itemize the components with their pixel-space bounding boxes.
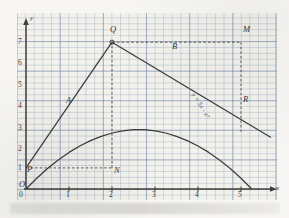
y-tick-label-2: 2 [18,145,22,153]
y-tick-label-1: 1 [18,164,22,172]
y-tick-label-6: 6 [18,59,22,67]
x-tick-label-1: 1 [66,191,70,199]
graph-paper-screenshot: 7 6 5 4 3 2 1 0 1 2 3 4 5 y x O P A Q B … [0,0,289,218]
point-label-m: M [243,25,250,34]
point-label-n: N [114,166,120,175]
x-axis-label: x [276,185,279,192]
x-tick-label-0: 0 [19,191,23,199]
x-tick-label-5: 5 [238,191,242,199]
point-label-r: R [243,95,248,104]
point-label-b: B [172,42,177,51]
y-axis-arrow [23,18,29,25]
x-tick-label-3: 3 [152,191,156,199]
point-label-q: Q [110,25,116,34]
y-tick-label-4: 4 [18,102,22,110]
segment-q-r [112,42,271,137]
y-axis-label: y [30,15,33,22]
y-tick-label-3: 3 [18,124,22,132]
x-tick-label-2: 2 [109,191,113,199]
y-tick-label-7: 7 [18,38,22,46]
point-label-p: P [27,165,32,174]
segment-p-q [26,42,112,168]
y-tick-label-5: 5 [18,81,22,89]
point-label-a: A [66,96,71,105]
curve-parabola [26,130,252,189]
point-label-o: O [19,180,25,189]
x-tick-label-4: 4 [195,191,199,199]
